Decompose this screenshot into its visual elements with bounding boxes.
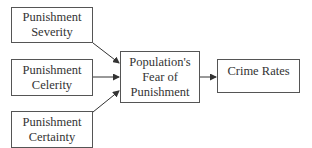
node-label-line: Punishment: [22, 10, 81, 25]
node-label-line: Celerity: [32, 78, 72, 93]
arrow-certainty-to-fear: [93, 91, 119, 112]
node-label-line: Population's: [129, 55, 190, 70]
node-population-fear: Population's Fear of Punishment: [120, 51, 200, 103]
node-label-line: Certainty: [29, 130, 76, 145]
node-label-line: Punishment: [22, 63, 81, 78]
arrow-severity-to-fear: [93, 43, 119, 63]
node-punishment-severity: Punishment Severity: [11, 7, 93, 43]
node-label-line: Punishment: [22, 115, 81, 130]
node-crime-rates: Crime Rates: [217, 59, 300, 93]
node-label-line: Punishment: [130, 85, 189, 100]
node-label-line: Crime Rates: [227, 64, 289, 79]
node-punishment-certainty: Punishment Certainty: [11, 111, 93, 148]
node-punishment-celerity: Punishment Celerity: [11, 59, 93, 96]
node-label-line: Fear of: [142, 70, 178, 85]
node-label-line: Severity: [31, 25, 73, 40]
